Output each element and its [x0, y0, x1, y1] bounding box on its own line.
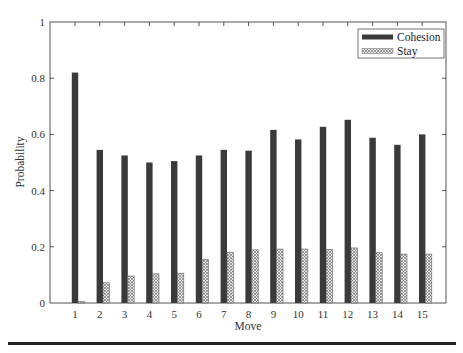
bar-cohesion [295, 139, 301, 303]
bar-cohesion [146, 163, 152, 304]
bar-cohesion [221, 150, 227, 303]
x-tick-label: 3 [122, 308, 128, 320]
legend-label-cohesion: Cohesion [397, 31, 441, 43]
bar-cohesion [419, 134, 425, 303]
bar-cohesion [394, 145, 400, 303]
bar-stay [252, 250, 258, 303]
bar-stay [425, 254, 431, 303]
bar-stay [326, 249, 332, 303]
bar-stay [177, 273, 183, 303]
x-tick-label: 8 [246, 308, 252, 320]
x-tick-label: 7 [221, 308, 227, 320]
bar-cohesion [121, 155, 127, 303]
bar-cohesion [345, 120, 351, 303]
x-axis-title: Move [235, 320, 262, 332]
legend-label-stay: Stay [397, 45, 418, 58]
bar-stay [401, 254, 407, 303]
bar-cohesion [171, 161, 177, 303]
bar-cohesion [369, 138, 375, 303]
legend-swatch-stay [362, 49, 393, 54]
x-tick-label: 15 [417, 308, 429, 320]
bar-cohesion [320, 127, 326, 303]
y-tick-label: 0.8 [31, 72, 45, 84]
x-tick-label: 13 [367, 308, 379, 320]
bar-stay [153, 274, 159, 303]
bar-stay [78, 302, 84, 303]
x-tick-label: 4 [147, 308, 153, 320]
y-axis-ticks: 00.20.40.60.81 [31, 16, 446, 309]
y-tick-label: 0 [40, 297, 46, 309]
bar-stay [227, 252, 233, 303]
x-tick-label: 1 [72, 308, 78, 320]
bar-stay [376, 253, 382, 303]
bar-cohesion [270, 130, 276, 303]
bottom-rule [8, 342, 456, 345]
bar-chart: 00.20.40.60.81 123456789101112131415 Mov… [0, 0, 463, 353]
bar-stay [351, 248, 357, 303]
x-tick-label: 12 [342, 308, 353, 320]
legend: Cohesion Stay [358, 29, 444, 58]
bar-cohesion [97, 150, 103, 303]
x-tick-label: 6 [196, 308, 202, 320]
y-tick-label: 0.2 [31, 241, 45, 253]
x-tick-label: 2 [97, 308, 103, 320]
bar-cohesion [72, 73, 78, 303]
bar-cohesion [196, 155, 202, 303]
y-tick-label: 0.6 [31, 128, 45, 140]
legend-swatch-cohesion [362, 35, 393, 40]
bar-stay [202, 259, 208, 303]
y-tick-label: 0.4 [31, 185, 45, 197]
bar-stay [103, 283, 109, 303]
bar-stay [277, 249, 283, 303]
x-tick-label: 14 [392, 308, 404, 320]
y-axis-title: Probability [14, 136, 27, 187]
x-tick-label: 9 [271, 308, 277, 320]
bar-stay [128, 276, 134, 303]
x-tick-label: 10 [293, 308, 305, 320]
bar-cohesion [245, 151, 251, 303]
bar-stay [301, 249, 307, 303]
x-tick-label: 5 [171, 308, 177, 320]
y-tick-label: 1 [40, 16, 46, 28]
x-tick-label: 11 [318, 308, 329, 320]
bar-series [72, 73, 432, 303]
